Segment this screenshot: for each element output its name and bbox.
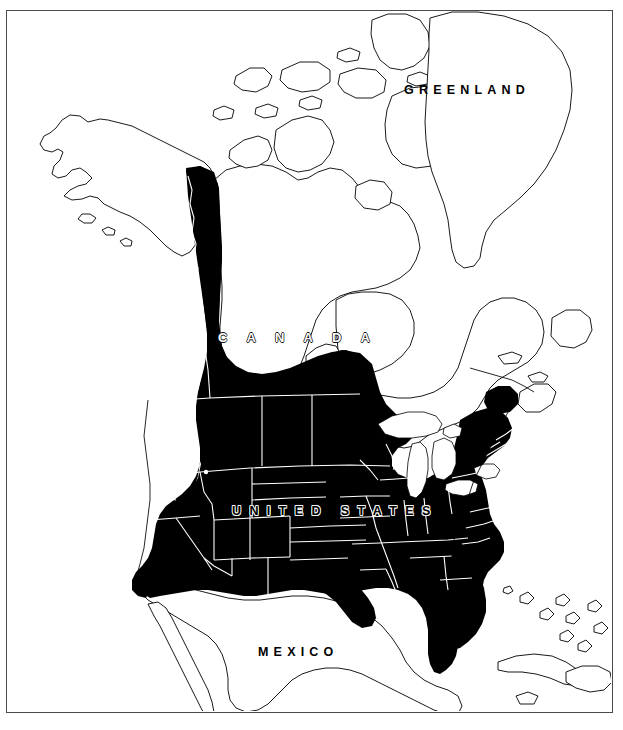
- region-nova-scotia: [518, 384, 556, 412]
- island-newfoundland: [551, 310, 592, 348]
- aleutian-fringe-2: [102, 227, 115, 235]
- aleutian-fringe-1: [78, 214, 96, 223]
- island-bermuda-dot: [503, 586, 513, 594]
- island-bahamas-2: [578, 640, 592, 652]
- island-bahamas-7: [588, 600, 602, 612]
- island-bahamas-5: [556, 594, 570, 606]
- island-devon: [338, 68, 386, 98]
- island-small-arctic-4: [337, 48, 360, 62]
- island-victoria: [274, 116, 334, 172]
- island-small-arctic-2: [255, 104, 278, 118]
- island-prince-patrick: [234, 68, 272, 92]
- island-small-arctic-5: [407, 72, 430, 86]
- island-bahamas-6: [520, 592, 534, 604]
- island-small-arctic-1: [299, 96, 322, 110]
- map-screenshot: GREENLAND C A N A D A UNITED STATES MEXI…: [0, 0, 623, 730]
- island-bahamas-1: [560, 630, 574, 642]
- island-bahamas-8: [566, 612, 580, 624]
- north-america-map: [0, 0, 623, 730]
- island-banks: [229, 136, 272, 168]
- lake-huron: [432, 438, 456, 480]
- island-pei: [528, 372, 548, 382]
- island-melville: [280, 62, 330, 92]
- island-small-arctic-3: [213, 106, 234, 120]
- region-greenland: [425, 12, 572, 268]
- border-wa-or: [152, 478, 176, 500]
- region-mexico: [140, 584, 462, 714]
- island-hispaniola: [566, 666, 612, 692]
- island-ellesmere: [371, 14, 430, 70]
- island-bahamas-3: [594, 622, 608, 634]
- island-bahamas-4: [540, 608, 554, 620]
- island-jamaica: [516, 692, 538, 704]
- aleutian-fringe-3: [120, 238, 132, 246]
